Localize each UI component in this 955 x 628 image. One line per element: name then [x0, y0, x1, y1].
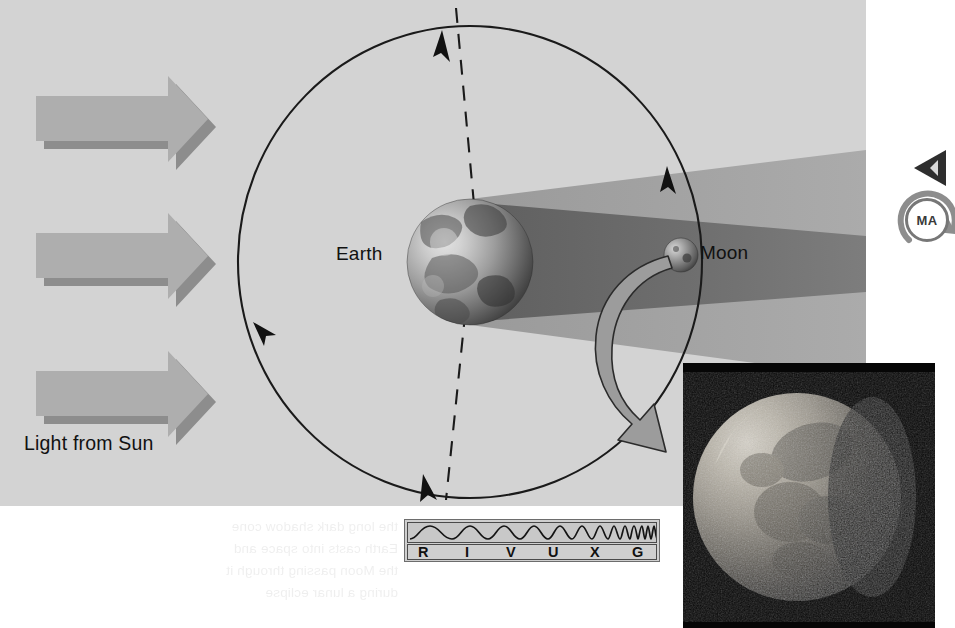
spectrum-letter-row: R I V U X G: [407, 544, 657, 560]
light-from-sun-label: Light from Sun: [24, 432, 154, 455]
spectrum-letter-r: R: [418, 544, 428, 560]
spectrum-waveform: [407, 522, 657, 543]
spectrum-letter-g: G: [632, 544, 643, 560]
earth-sphere: [407, 199, 533, 326]
eclipse-figure: Earth Moon Light from Sun R I V U X G MA…: [0, 0, 955, 628]
spectrum-wave-svg: [408, 523, 657, 542]
spectrum-bar: R I V U X G: [404, 519, 660, 562]
ma-badge: MA: [905, 198, 949, 242]
earth-label: Earth: [336, 243, 382, 265]
sunlight-arrows: [36, 76, 216, 445]
spectrum-letter-i: I: [465, 544, 469, 560]
sunlight-arrow-1: [36, 76, 216, 170]
edge-play-triangle-icon[interactable]: [914, 150, 946, 186]
sunlight-arrow-2: [36, 213, 216, 307]
eclipse-photograph: [683, 363, 935, 628]
sunlight-arrow-3: [36, 351, 216, 445]
ma-badge-text: MA: [905, 198, 949, 242]
spectrum-letter-v: V: [506, 544, 516, 560]
moon-label: Moon: [700, 242, 748, 264]
spectrum-letter-x: X: [590, 544, 600, 560]
spectrum-letter-u: U: [548, 544, 558, 560]
